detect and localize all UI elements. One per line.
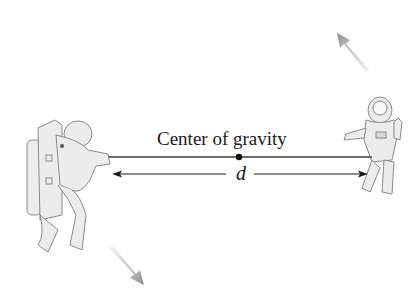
motion-arrow-down-right-icon — [109, 246, 144, 285]
distance-label: d — [232, 162, 250, 185]
center-of-gravity-label: Center of gravity — [157, 128, 287, 150]
left-astronaut-icon — [27, 120, 110, 252]
motion-arrow-up-left-icon — [337, 33, 370, 72]
diagram-canvas: Center of gravity d — [0, 0, 417, 299]
right-astronaut-icon — [344, 97, 402, 194]
center-of-gravity-dot — [236, 154, 242, 160]
